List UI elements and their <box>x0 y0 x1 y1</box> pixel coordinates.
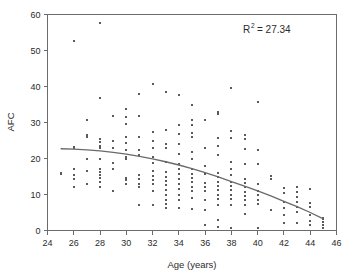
data-point <box>217 226 219 228</box>
data-point <box>257 227 259 229</box>
data-point <box>165 180 167 182</box>
data-point <box>125 142 127 144</box>
data-point <box>73 178 75 180</box>
data-point <box>152 162 154 164</box>
chart-canvas: 0102030405060 242628303234363840424446 A… <box>0 0 349 277</box>
data-point <box>191 151 193 153</box>
data-point <box>138 186 140 188</box>
data-point <box>309 214 311 216</box>
data-point <box>178 207 180 209</box>
data-point <box>204 165 206 167</box>
data-point <box>309 188 311 190</box>
data-point <box>283 207 285 209</box>
data-point <box>191 181 193 183</box>
data-point <box>283 214 285 216</box>
data-point <box>125 179 127 181</box>
data-point <box>138 204 140 206</box>
data-point <box>309 206 311 208</box>
data-point <box>191 186 193 188</box>
data-point <box>322 224 324 226</box>
r-squared-value: = 27.34 <box>257 24 291 35</box>
data-point <box>138 93 140 95</box>
data-point <box>257 199 259 201</box>
data-point <box>152 170 154 172</box>
data-point <box>165 129 167 131</box>
data-point <box>112 147 114 149</box>
y-tick-label: 10 <box>30 190 40 200</box>
data-point <box>165 91 167 93</box>
data-point <box>217 113 219 115</box>
y-tick-label: 30 <box>30 118 40 128</box>
data-point <box>217 145 219 147</box>
data-point <box>244 148 246 150</box>
data-point <box>204 199 206 201</box>
data-point <box>204 186 206 188</box>
data-point <box>165 189 167 191</box>
data-point <box>178 143 180 145</box>
data-point <box>165 171 167 173</box>
data-point <box>152 183 154 185</box>
data-point <box>125 136 127 138</box>
data-point <box>204 182 206 184</box>
data-point <box>244 134 246 136</box>
data-point <box>112 115 114 117</box>
data-point <box>152 140 154 142</box>
data-point <box>296 201 298 203</box>
data-point <box>296 191 298 193</box>
data-point <box>191 208 193 210</box>
data-point <box>230 161 232 163</box>
data-point <box>152 179 154 181</box>
data-point <box>230 185 232 187</box>
y-axis-ticks: 0102030405060 <box>30 10 47 236</box>
data-point <box>204 190 206 192</box>
data-point <box>217 181 219 183</box>
data-point <box>152 147 154 149</box>
data-point <box>270 175 272 177</box>
data-point <box>257 203 259 205</box>
data-point <box>217 189 219 191</box>
data-point <box>86 158 88 160</box>
data-point <box>99 141 101 143</box>
data-point <box>217 154 219 156</box>
x-axis-title: Age (years) <box>167 259 216 270</box>
y-tick-label: 60 <box>30 10 40 20</box>
data-point <box>165 207 167 209</box>
data-point <box>178 133 180 135</box>
data-point <box>99 145 101 147</box>
data-point <box>191 190 193 192</box>
data-point <box>217 185 219 187</box>
data-point-group <box>60 22 325 229</box>
data-point <box>244 191 246 193</box>
data-point <box>309 220 311 222</box>
data-point <box>257 183 259 185</box>
data-point <box>217 198 219 200</box>
data-point <box>99 177 101 179</box>
data-point <box>138 174 140 176</box>
data-point <box>296 211 298 213</box>
data-point <box>165 147 167 149</box>
data-point <box>230 189 232 191</box>
data-point <box>125 149 127 151</box>
data-point <box>125 108 127 110</box>
data-point <box>99 171 101 173</box>
data-point <box>86 136 88 138</box>
data-point <box>191 132 193 134</box>
data-point <box>191 173 193 175</box>
data-point <box>99 168 101 170</box>
data-point <box>217 172 219 174</box>
data-point <box>230 130 232 132</box>
r-squared-label: R <box>243 24 250 35</box>
x-tick-label: 36 <box>200 238 210 248</box>
x-tick-label: 32 <box>148 238 158 248</box>
data-point <box>178 178 180 180</box>
data-point <box>125 183 127 185</box>
y-tick-label: 0 <box>35 226 40 236</box>
data-point <box>165 143 167 145</box>
data-point <box>217 219 219 221</box>
data-point <box>138 178 140 180</box>
data-point <box>99 138 101 140</box>
data-point <box>99 97 101 99</box>
data-point <box>73 186 75 188</box>
y-tick-label: 20 <box>30 154 40 164</box>
data-point <box>322 227 324 229</box>
